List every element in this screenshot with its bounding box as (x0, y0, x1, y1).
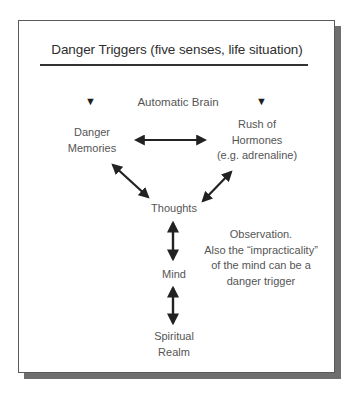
node-label-line: Memories (52, 141, 132, 157)
down-triangle-icon: ▼ (256, 95, 267, 107)
observation-note: Observation. Also the “impracticality” o… (196, 227, 326, 289)
node-label-line: Thoughts (134, 201, 214, 217)
node-label-line: Hormones (207, 133, 307, 149)
node-label-line: Spiritual (134, 329, 214, 345)
note-line: Observation. (196, 227, 326, 243)
node-thoughts: Thoughts (134, 201, 214, 217)
node-danger-memories: Danger Memories (52, 125, 132, 156)
diagram-title: Danger Triggers (five senses, life situa… (0, 42, 354, 57)
diagram-frame (18, 20, 335, 373)
note-line: danger trigger (196, 274, 326, 290)
node-label-line: Danger (52, 125, 132, 141)
node-label-line: Realm (134, 345, 214, 361)
title-divider (40, 64, 308, 66)
node-spiritual-realm: Spiritual Realm (134, 329, 214, 360)
down-triangle-icon: ▼ (85, 95, 96, 107)
note-line: of the mind can be a (196, 258, 326, 274)
automatic-brain-label: Automatic Brain (128, 95, 228, 111)
node-rush-of-hormones: Rush of Hormones (e.g. adrenaline) (207, 117, 307, 164)
note-line: Also the “impracticality” (196, 243, 326, 259)
node-label-line: Rush of (207, 117, 307, 133)
node-label-line: (e.g. adrenaline) (207, 148, 307, 164)
